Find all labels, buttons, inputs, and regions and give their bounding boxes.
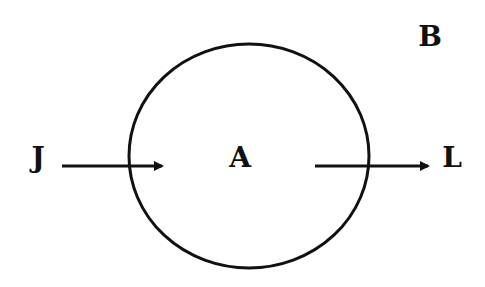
label-j: J — [28, 141, 44, 174]
label-a: A — [228, 141, 252, 174]
label-b: B — [418, 20, 442, 53]
diagram-canvas: A B J L — [0, 0, 485, 287]
label-l: L — [442, 141, 462, 174]
